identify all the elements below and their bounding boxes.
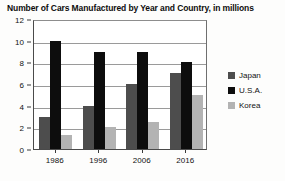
legend-label: Korea	[239, 101, 260, 110]
x-tick-mark	[55, 150, 56, 153]
legend-swatch-icon	[228, 87, 235, 94]
legend-swatch-icon	[228, 72, 235, 79]
y-tick-mark	[27, 41, 31, 42]
bar-usa-1986	[50, 41, 61, 149]
x-tick-mark	[142, 150, 143, 153]
bar-korea-1986	[61, 135, 72, 149]
y-tick-label: 2	[20, 124, 24, 133]
x-tick-mark	[98, 150, 99, 153]
legend-item[interactable]: Japan	[228, 68, 282, 83]
x-axis-ticks	[33, 150, 207, 154]
bar-korea-2006	[148, 122, 159, 149]
legend-item[interactable]: U.S.A.	[228, 83, 282, 98]
y-tick-label: 8	[20, 59, 24, 68]
y-tick-label: 4	[20, 102, 24, 111]
y-axis: 024681012	[0, 20, 31, 150]
x-axis: 1986199620062016	[33, 156, 207, 170]
y-tick-label: 6	[20, 81, 24, 90]
y-tick-mark	[27, 150, 31, 151]
y-tick-mark	[27, 85, 31, 86]
legend-label: U.S.A.	[239, 86, 262, 95]
x-tick-label: 1986	[46, 156, 64, 165]
legend-swatch-icon	[228, 102, 235, 109]
x-tick-mark	[185, 150, 186, 153]
bar-japan-1996	[83, 106, 94, 149]
y-tick-mark	[27, 63, 31, 64]
y-tick-mark	[27, 128, 31, 129]
bar-korea-1996	[105, 127, 116, 149]
bars-layer	[34, 21, 206, 149]
bar-korea-2016	[192, 95, 203, 149]
bar-chart-figure: Number of Cars Manufactured by Year and …	[0, 0, 285, 181]
plot-area	[33, 20, 207, 150]
y-tick-mark	[27, 20, 31, 21]
chart-legend: JapanU.S.A.Korea	[228, 68, 282, 113]
x-tick-label: 1996	[89, 156, 107, 165]
legend-item[interactable]: Korea	[228, 98, 282, 113]
y-tick-label: 10	[15, 37, 24, 46]
bar-usa-1996	[94, 52, 105, 150]
y-tick-mark	[27, 106, 31, 107]
y-tick-label: 12	[15, 16, 24, 25]
y-tick-label: 0	[20, 146, 24, 155]
chart-title: Number of Cars Manufactured by Year and …	[7, 3, 254, 13]
bar-usa-2016	[181, 62, 192, 149]
bar-japan-1986	[39, 117, 50, 150]
legend-label: Japan	[239, 71, 261, 80]
bar-japan-2006	[126, 84, 137, 149]
x-tick-label: 2006	[133, 156, 151, 165]
bar-usa-2006	[137, 52, 148, 150]
x-tick-label: 2016	[176, 156, 194, 165]
bar-japan-2016	[170, 73, 181, 149]
